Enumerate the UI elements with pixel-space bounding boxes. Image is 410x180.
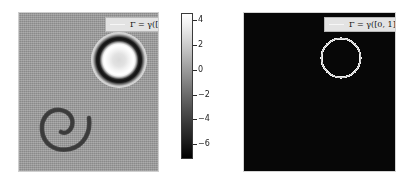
colorbar-group: 420−2−4−6 <box>181 13 193 159</box>
colorbar-tick-mark <box>193 119 197 120</box>
dark-spiral-arc-feature <box>34 99 100 159</box>
right-binary-panel: Γ = γ([0, 1]) <box>243 12 396 172</box>
colorbar-tick-mark <box>193 95 197 96</box>
legend-line-sample <box>329 24 344 25</box>
white-ring-curve <box>318 35 364 81</box>
legend-label: Γ = γ([0, 1]) <box>349 20 396 29</box>
colorbar-tick-mark <box>193 45 197 46</box>
colorbar-tick-label: 4 <box>198 16 203 24</box>
colorbar-tick-mark <box>193 144 197 145</box>
left-field-panel: Γ = γ([0, 1]) <box>18 12 159 172</box>
bright-ring-feature <box>91 32 147 88</box>
colorbar-tick-mark <box>193 70 197 71</box>
legend-box: Γ = γ([0, 1]) <box>324 17 396 32</box>
colorbar-tick-label: −2 <box>198 91 210 99</box>
legend-label: Γ = γ([0, 1]) <box>130 20 159 29</box>
colorbar-tick-label: 0 <box>198 66 203 74</box>
colorbar-tick-mark <box>193 20 197 21</box>
colorbar-tick-label: −4 <box>198 115 210 123</box>
legend-line-sample <box>110 24 125 25</box>
colorbar-gradient <box>181 13 193 159</box>
colorbar-tick-label: 2 <box>198 41 203 49</box>
figure-canvas: Γ = γ([0, 1]) 420−2−4−6 Γ = γ([0, 1]) <box>0 0 410 180</box>
legend-box: Γ = γ([0, 1]) <box>105 17 159 32</box>
colorbar-tick-label: −6 <box>198 140 210 148</box>
